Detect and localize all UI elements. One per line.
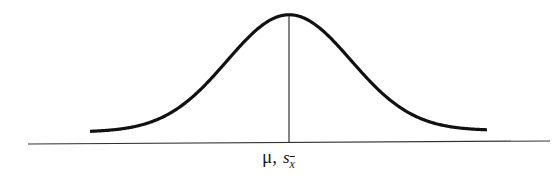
mean-label: μ,sx: [262, 146, 295, 168]
x-bar-subscript: x: [290, 157, 295, 172]
mu-symbol: μ: [262, 146, 272, 167]
s-symbol: s: [283, 148, 290, 167]
label-separator: ,: [272, 146, 277, 167]
